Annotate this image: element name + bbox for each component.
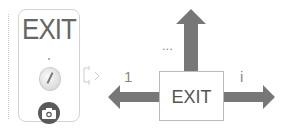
direction-arrows <box>0 0 289 131</box>
exit-sign-box: EXIT <box>159 71 224 121</box>
label-right: i <box>240 68 243 85</box>
label-up: ... <box>162 38 173 53</box>
label-left: 1 <box>124 68 132 85</box>
box-exit-text: EXIT <box>160 87 223 108</box>
